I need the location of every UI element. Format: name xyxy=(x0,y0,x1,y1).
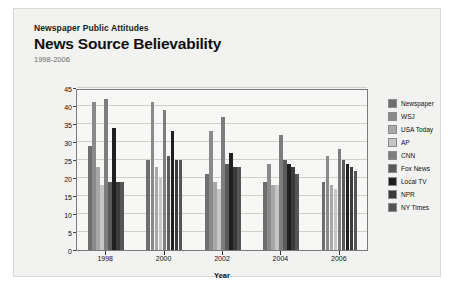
x-tick-label: 2006 xyxy=(319,255,359,262)
y-axis-ticks: 051015202530354045 xyxy=(52,89,72,251)
x-tick-label: 2000 xyxy=(144,255,184,262)
legend-item[interactable]: NY Times xyxy=(388,201,453,214)
y-tick-label: 20 xyxy=(64,176,72,183)
gridline xyxy=(77,87,367,88)
legend-item[interactable]: NPR xyxy=(388,188,453,201)
legend-label: NY Times xyxy=(401,204,429,212)
chart-subtitle: 1998-2006 xyxy=(34,55,374,65)
legend-label: Newspaper xyxy=(401,100,434,108)
legend-swatch-icon xyxy=(388,112,397,121)
legend-item[interactable]: AP xyxy=(388,136,453,149)
y-tick-label: 25 xyxy=(64,158,72,165)
legend-label: NPR xyxy=(401,191,415,199)
x-tick-mark xyxy=(164,251,165,255)
x-tick-label: 2004 xyxy=(260,255,300,262)
bar-group xyxy=(146,90,182,250)
y-tick-label: 35 xyxy=(64,122,72,129)
legend-item[interactable]: USA Today xyxy=(388,123,453,136)
legend-label: USA Today xyxy=(401,126,433,134)
y-tick-label: 45 xyxy=(64,86,72,93)
chart-eyebrow: Newspaper Public Attitudes xyxy=(34,23,374,34)
chart-page: Newspaper Public Attitudes News Source B… xyxy=(0,0,453,285)
bar xyxy=(237,167,241,250)
x-tick-mark xyxy=(222,251,223,255)
legend-label: CNN xyxy=(401,152,415,160)
x-tick-mark xyxy=(105,251,106,255)
bar xyxy=(295,174,299,250)
x-tick-label: 2002 xyxy=(202,255,242,262)
bar-group xyxy=(263,90,299,250)
legend-label: Local TV xyxy=(401,178,427,186)
legend-swatch-icon xyxy=(388,203,397,212)
y-tick-label: 10 xyxy=(64,212,72,219)
legend-swatch-icon xyxy=(388,177,397,186)
bar xyxy=(354,171,358,250)
legend-swatch-icon xyxy=(388,99,397,108)
bar xyxy=(120,182,124,250)
bar-group xyxy=(88,90,124,250)
legend-label: Fox News xyxy=(401,165,430,173)
x-tick-mark xyxy=(280,251,281,255)
y-tick-label: 30 xyxy=(64,140,72,147)
y-tick-label: 40 xyxy=(64,104,72,111)
x-tick-label: 1998 xyxy=(85,255,125,262)
chart-header: Newspaper Public Attitudes News Source B… xyxy=(34,23,374,65)
x-axis-label: Year xyxy=(76,271,368,280)
legend-item[interactable]: Fox News xyxy=(388,162,453,175)
y-tick-label: 15 xyxy=(64,194,72,201)
legend-item[interactable]: Local TV xyxy=(388,175,453,188)
x-tick-mark xyxy=(339,251,340,255)
y-axis-label: News Source xyxy=(0,21,1,121)
bar xyxy=(179,160,183,250)
y-tick-label: 0 xyxy=(68,248,72,255)
legend-item[interactable]: WSJ xyxy=(388,110,453,123)
legend-swatch-icon xyxy=(388,164,397,173)
chart-card: Newspaper Public Attitudes News Source B… xyxy=(13,8,441,277)
legend-label: AP xyxy=(401,139,410,147)
legend-swatch-icon xyxy=(388,138,397,147)
legend-label: WSJ xyxy=(401,113,415,121)
legend-swatch-icon xyxy=(388,151,397,160)
chart-legend: NewspaperWSJUSA TodayAPCNNFox NewsLocal … xyxy=(388,97,453,214)
legend-item[interactable]: CNN xyxy=(388,149,453,162)
plot-area xyxy=(76,89,368,251)
legend-item[interactable]: Newspaper xyxy=(388,97,453,110)
page-title: News Source Believability xyxy=(34,35,374,53)
legend-swatch-icon xyxy=(388,125,397,134)
bar-group xyxy=(322,90,358,250)
legend-swatch-icon xyxy=(388,190,397,199)
y-tick-label: 5 xyxy=(68,230,72,237)
bar-group xyxy=(205,90,241,250)
